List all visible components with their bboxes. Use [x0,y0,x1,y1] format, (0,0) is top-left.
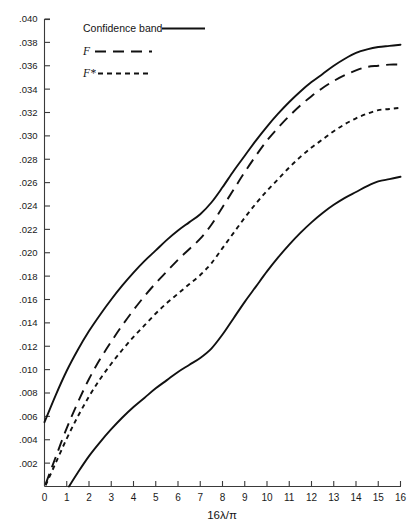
x-tick-label: 11 [284,492,295,503]
y-tick-label: .034 [19,84,38,95]
x-tick-label: 12 [306,492,318,503]
y-tick-label: .020 [19,247,38,258]
x-tick-label: 0 [42,492,48,503]
y-tick-label: .010 [19,364,38,375]
y-tick-label: .032 [19,107,38,118]
y-tick-label: .006 [19,411,38,422]
x-tick-label: 13 [328,492,340,503]
x-tick-label: 4 [131,492,137,503]
line-chart: .040.038.036.034.032.030.028.026.024.022… [0,0,420,531]
x-tick-label: 7 [197,492,203,503]
chart-figure: .040.038.036.034.032.030.028.026.024.022… [0,0,420,531]
y-tick-label: .024 [19,200,38,211]
y-tick-label: .028 [19,154,38,165]
y-tick-label: .016 [19,294,38,305]
y-tick-label: .022 [19,224,38,235]
legend-label-f-star: F* [82,67,96,79]
x-tick-label: 9 [242,492,248,503]
x-tick-label: 6 [175,492,181,503]
y-tick-label: .012 [19,341,38,352]
x-tick-label: 16 [395,492,407,503]
y-tick-label: .004 [19,434,38,445]
x-tick-label: 1 [64,492,70,503]
x-tick-label: 14 [350,492,362,503]
chart-legend: Confidence band F F* [82,22,205,79]
y-tick-label: .002 [19,458,38,469]
x-axis-ticks: 012345678910111213141516 [42,481,407,503]
y-tick-label: .008 [19,387,38,398]
legend-label-f: F [82,45,91,57]
curve-f [46,108,401,486]
y-axis-ticks: .040.038.036.034.032.030.028.026.024.022… [19,13,50,468]
y-tick-label: .038 [19,37,38,48]
y-tick-label: .030 [19,130,38,141]
x-axis-title: 16λ/π [207,509,237,521]
x-tick-label: 3 [108,492,114,503]
x-tick-label: 10 [261,492,273,503]
data-curves [45,45,401,487]
legend-label-confidence-band: Confidence band [83,22,163,34]
y-tick-label: .014 [19,317,38,328]
x-tick-label: 5 [153,492,159,503]
axes [45,19,402,487]
y-tick-label: .040 [19,13,38,24]
y-tick-label: .036 [19,60,38,71]
x-tick-label: 2 [86,492,92,503]
curve-f [46,64,401,484]
y-tick-label: .018 [19,271,38,282]
x-tick-label: 15 [373,492,385,503]
curve-confidence-band-upper [45,45,401,423]
y-tick-label: .026 [19,177,38,188]
x-tick-label: 8 [220,492,226,503]
